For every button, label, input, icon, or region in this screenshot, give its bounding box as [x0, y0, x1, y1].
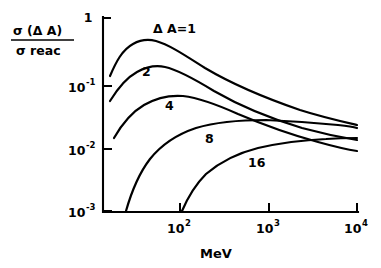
- y-axis-tick-labels: 1 10 -1 10 -2 10 -3: [68, 10, 96, 220]
- x-tick-label-1e4-mantissa: 10: [344, 221, 362, 236]
- y-axis-title: σ (Δ A) σ reac: [11, 23, 74, 58]
- y-tick-label-1: 1: [84, 10, 93, 25]
- x-tick-label-1e3-exponent: 3: [274, 218, 280, 228]
- x-tick-label-1e2-exponent: 2: [185, 218, 191, 228]
- y-tick-label-1e-3-exponent: -3: [86, 202, 96, 212]
- curve-label-4: 4: [165, 98, 174, 113]
- y-tick-label-1e-2-group: 10 -2: [68, 140, 96, 158]
- curve-delta-a-16: [182, 138, 357, 211]
- x-tick-label-1e4-group: 10 4: [344, 218, 368, 236]
- x-axis-ticks: [180, 203, 357, 212]
- curve-label-2: 2: [142, 64, 151, 79]
- y-tick-label-1e-1-mantissa: 10: [68, 80, 86, 95]
- chart-svg: σ (Δ A) σ reac 1 10 -1 10 -2: [0, 0, 381, 268]
- y-axis-title-numerator: σ (Δ A): [13, 23, 62, 38]
- curve-label-delta-a-1: Δ A=1: [153, 21, 196, 36]
- x-tick-label-1e2-group: 10 2: [167, 218, 191, 236]
- y-axis-title-denominator: σ reac: [16, 43, 61, 58]
- x-tick-label-1e3-group: 10 3: [256, 218, 280, 236]
- axis-spines: [103, 17, 358, 212]
- y-tick-label-1e-3-group: 10 -3: [68, 202, 96, 220]
- x-tick-label-1e2-mantissa: 10: [167, 221, 185, 236]
- y-tick-label-1e-1-group: 10 -1: [68, 77, 96, 95]
- x-tick-label-1e4-exponent: 4: [362, 218, 368, 228]
- y-tick-label-1e-3-mantissa: 10: [68, 205, 86, 220]
- axes-frame: [103, 17, 358, 212]
- curve-label-8: 8: [205, 131, 214, 146]
- figure-container: σ (Δ A) σ reac 1 10 -1 10 -2: [0, 0, 381, 268]
- y-tick-label-1e-2-mantissa: 10: [68, 143, 86, 158]
- y-tick-label-1e-1-exponent: -1: [86, 77, 96, 87]
- x-axis-tick-labels: 10 2 10 3 10 4: [167, 218, 368, 236]
- y-axis-ticks: [103, 86, 112, 211]
- curve-label-16: 16: [248, 155, 266, 170]
- x-tick-label-1e3-mantissa: 10: [256, 221, 274, 236]
- x-axis-title: MeV: [200, 246, 232, 261]
- y-tick-label-1e-2-exponent: -2: [86, 140, 96, 150]
